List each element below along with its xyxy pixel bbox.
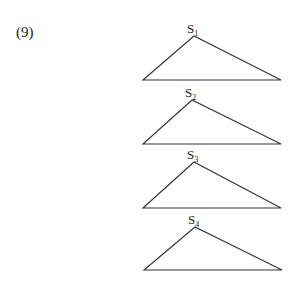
triangle-s4: S4: [144, 212, 282, 270]
triangle-shape: [143, 100, 281, 144]
vertex-label: S2: [185, 85, 196, 102]
triangle-s1: S1: [143, 21, 281, 80]
vertex-label: S4: [188, 212, 199, 229]
vertex-label: S3: [187, 147, 198, 164]
triangle-shape: [143, 36, 281, 80]
vertex-label: S1: [187, 21, 198, 38]
triangle-shape: [144, 227, 282, 270]
triangle-s3: S3: [143, 147, 281, 208]
triangle-s2: S2: [143, 85, 281, 144]
triangle-shape: [143, 162, 281, 208]
triangle-figure: S1 S2 S3 S4: [0, 0, 299, 283]
